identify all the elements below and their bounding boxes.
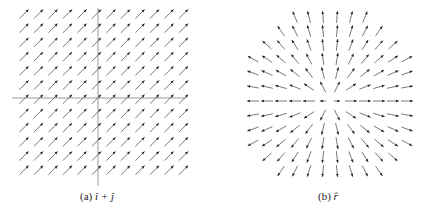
vector-arrow-icon	[248, 56, 259, 62]
vector-arrow-icon	[77, 38, 86, 47]
vector-arrow-icon	[349, 165, 353, 176]
vector-arrow-icon	[77, 123, 86, 132]
vector-arrow-icon	[361, 54, 369, 63]
vector-arrow-icon	[121, 52, 130, 61]
vector-arrow-icon	[135, 166, 144, 175]
vector-arrow-icon	[121, 166, 130, 175]
vector-arrow-icon	[48, 38, 57, 47]
vector-arrow-icon	[375, 152, 383, 161]
vector-arrow-icon	[135, 80, 144, 89]
vector-arrow-icon	[164, 123, 173, 132]
vector-arrow-icon	[336, 151, 339, 163]
vector-arrow-icon	[361, 138, 369, 147]
vector-arrow-icon	[347, 68, 354, 78]
vector-arrow-icon	[321, 137, 324, 149]
vector-arrow-icon	[307, 151, 311, 162]
vector-arrow-icon	[19, 80, 28, 89]
vector-arrow-icon	[92, 80, 101, 89]
vector-arrow-icon	[48, 24, 57, 33]
vector-arrow-icon	[261, 100, 273, 103]
vector-arrow-icon	[121, 80, 130, 89]
vector-arrow-icon	[150, 123, 159, 132]
vector-arrow-icon	[359, 85, 370, 90]
vector-arrow-icon	[77, 137, 86, 146]
vector-arrow-icon	[63, 9, 72, 18]
vector-arrow-icon	[19, 52, 28, 61]
vector-arrow-icon	[150, 80, 159, 89]
vector-arrow-icon	[19, 38, 28, 47]
vector-arrow-icon	[334, 110, 339, 121]
vector-arrow-icon	[293, 11, 298, 22]
vector-arrow-icon	[19, 24, 28, 33]
vector-arrow-icon	[362, 26, 367, 37]
vector-arrow-icon	[290, 69, 299, 76]
vector-arrow-icon	[34, 66, 43, 75]
vector-arrow-icon	[388, 140, 398, 147]
vector-arrow-icon	[34, 151, 43, 160]
vector-arrow-icon	[34, 9, 43, 18]
vector-arrow-icon	[387, 114, 399, 117]
vector-arrow-icon	[276, 126, 286, 132]
vector-arrow-icon	[121, 9, 130, 18]
vector-arrow-icon	[48, 123, 57, 132]
vector-arrow-icon	[135, 24, 144, 33]
vector-arrow-icon	[275, 113, 287, 117]
vector-arrow-icon	[261, 85, 273, 88]
vector-arrow-icon	[289, 113, 300, 118]
vector-arrow-icon	[334, 100, 340, 103]
vector-arrow-icon	[92, 151, 101, 160]
vector-arrow-icon	[63, 95, 72, 104]
vector-arrow-icon	[292, 166, 297, 177]
vector-arrow-icon	[348, 54, 353, 65]
vector-arrow-icon	[336, 39, 339, 51]
vector-arrow-icon	[263, 153, 272, 161]
vector-arrow-icon	[135, 109, 144, 118]
vector-arrow-icon	[345, 100, 357, 103]
vector-arrow-icon	[77, 24, 86, 33]
vector-arrow-icon	[321, 151, 324, 163]
vector-arrow-icon	[34, 166, 43, 175]
vector-arrow-icon	[303, 100, 315, 103]
vector-arrow-icon	[261, 114, 273, 117]
vector-arrow-icon	[334, 82, 339, 93]
vector-arrow-icon	[164, 38, 173, 47]
vector-arrow-icon	[362, 152, 368, 162]
vector-arrow-icon	[164, 166, 173, 175]
vector-arrow-icon	[388, 56, 398, 63]
vector-arrow-icon	[336, 25, 339, 37]
vector-field-figure	[0, 0, 424, 219]
vector-arrow-icon	[262, 71, 273, 76]
vector-arrow-icon	[19, 166, 28, 175]
vector-arrow-icon	[63, 38, 72, 47]
vector-arrow-icon	[135, 151, 144, 160]
vector-arrow-icon	[402, 140, 413, 146]
caption-b: (b) r̂	[318, 190, 338, 202]
vector-arrow-icon	[19, 95, 28, 104]
vector-arrow-icon	[348, 138, 353, 149]
vector-arrow-icon	[277, 40, 285, 49]
vector-arrow-icon	[349, 151, 353, 162]
vector-arrow-icon	[164, 109, 173, 118]
vector-arrow-icon	[276, 139, 285, 147]
vector-arrow-icon	[292, 26, 297, 37]
vector-arrow-icon	[63, 24, 72, 33]
vector-arrow-icon	[376, 26, 383, 36]
caption-a-math: î + ĵ	[95, 190, 114, 202]
vector-arrow-icon	[336, 165, 339, 177]
vector-arrow-icon	[336, 67, 339, 79]
vector-arrow-icon	[164, 95, 173, 104]
vector-arrow-icon	[388, 71, 399, 76]
vector-arrow-icon	[248, 140, 259, 146]
vector-arrow-icon	[402, 56, 413, 62]
vector-arrow-icon	[19, 109, 28, 118]
vector-arrow-icon	[135, 52, 144, 61]
vector-arrow-icon	[48, 66, 57, 75]
vector-arrow-icon	[305, 124, 312, 134]
vector-arrow-icon	[48, 95, 57, 104]
vector-arrow-icon	[77, 80, 86, 89]
vector-arrow-icon	[276, 55, 285, 63]
vector-arrow-icon	[359, 100, 371, 103]
vector-arrow-icon	[247, 114, 259, 117]
vector-arrow-icon	[164, 24, 173, 33]
vector-arrow-icon	[389, 153, 398, 161]
